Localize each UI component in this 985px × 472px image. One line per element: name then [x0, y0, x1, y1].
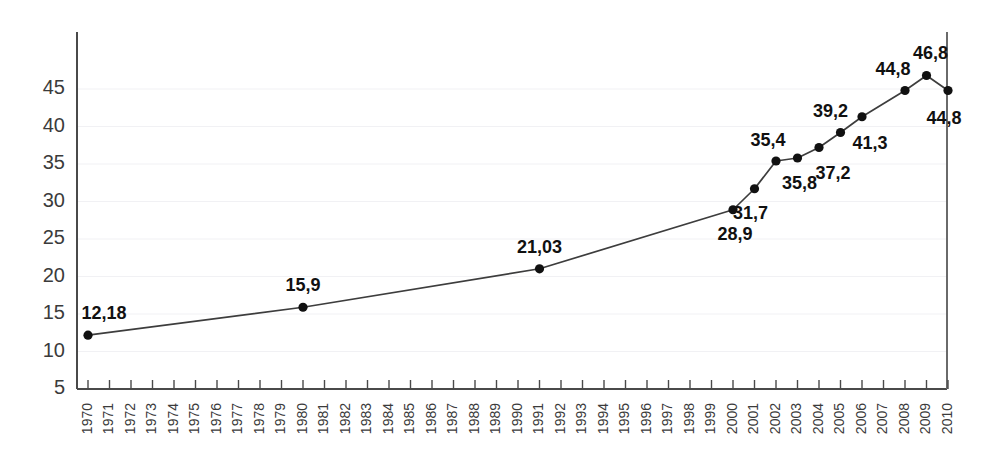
data-point-label: 35,4: [750, 130, 785, 150]
x-axis-tick-label: 1987: [444, 403, 460, 434]
data-point-marker: [836, 128, 845, 137]
x-axis-tick-label: 1991: [530, 403, 546, 434]
x-axis-tick-label: 1988: [466, 403, 482, 434]
y-axis-tick-label: 25: [43, 226, 65, 248]
x-axis-tick-label: 1981: [315, 403, 331, 434]
x-axis-tick-label: 1990: [509, 403, 525, 434]
chart-background: [0, 0, 985, 472]
line-chart: 51015202530354045 1970197119721973197419…: [0, 0, 985, 472]
x-axis-tick-label: 2007: [874, 403, 890, 434]
y-axis-tick-label: 40: [43, 114, 65, 136]
data-point-label: 46,8: [913, 43, 948, 63]
data-point-marker: [793, 153, 802, 162]
x-axis-tick-label: 2002: [767, 403, 783, 434]
data-point-label: 31,7: [733, 203, 768, 223]
x-axis-tick-label: 1971: [100, 403, 116, 434]
y-axis-tick-label: 35: [43, 151, 65, 173]
data-point-marker: [750, 184, 759, 193]
x-axis-tick-label: 1989: [487, 403, 503, 434]
data-point-marker: [771, 156, 780, 165]
x-axis-tick-label: 1973: [143, 403, 159, 434]
x-axis-tick-label: 1984: [380, 403, 396, 434]
x-axis-tick-label: 1993: [573, 403, 589, 434]
x-axis-tick-label: 1978: [251, 403, 267, 434]
data-point-label: 21,03: [517, 237, 562, 257]
x-axis-tick-label: 1972: [122, 403, 138, 434]
x-axis-tick-label: 1970: [79, 403, 95, 434]
x-axis-tick-label: 2009: [917, 403, 933, 434]
data-point-label: 44,8: [926, 108, 961, 128]
data-point-label: 15,9: [285, 275, 320, 295]
x-axis-tick-label: 1977: [229, 403, 245, 434]
y-axis-tick-label: 20: [43, 264, 65, 286]
data-point-marker: [900, 86, 909, 95]
x-axis-tick-label: 1983: [358, 403, 374, 434]
x-axis-tick-label: 2010: [939, 403, 955, 434]
y-axis-tick-labels: 51015202530354045: [43, 76, 65, 398]
x-axis-tick-label: 1992: [552, 403, 568, 434]
data-point-label: 35,8: [782, 173, 817, 193]
data-point-marker: [857, 112, 866, 121]
x-axis-tick-label: 1997: [659, 403, 675, 434]
x-axis-tick-label: 1996: [638, 403, 654, 434]
data-point-marker: [298, 303, 307, 312]
y-axis-tick-label: 5: [54, 376, 65, 398]
x-axis-tick-label: 1979: [272, 403, 288, 434]
x-axis-tick-label: 1999: [702, 403, 718, 434]
x-axis-tick-label: 1994: [595, 403, 611, 434]
x-axis-tick-label: 1980: [294, 403, 310, 434]
x-axis-tick-label: 1986: [423, 403, 439, 434]
x-axis-tick-label: 1998: [681, 403, 697, 434]
x-axis-tick-label: 2001: [745, 403, 761, 434]
x-axis-tick-label: 1974: [165, 403, 181, 434]
data-point-label: 28,9: [717, 224, 752, 244]
x-axis-tick-label: 2000: [724, 403, 740, 434]
x-axis-tick-label: 2006: [853, 403, 869, 434]
x-axis-tick-label: 2005: [831, 403, 847, 434]
data-point-marker: [922, 71, 931, 80]
data-point-marker: [943, 86, 952, 95]
x-axis-tick-label: 1995: [616, 403, 632, 434]
y-axis-tick-label: 45: [43, 76, 65, 98]
y-axis-tick-label: 30: [43, 189, 65, 211]
data-point-label: 44,8: [875, 59, 910, 79]
data-point-label: 41,3: [852, 133, 887, 153]
x-axis-tick-labels: 1970197119721973197419751976197719781979…: [79, 403, 955, 434]
x-axis-tick-label: 1985: [401, 403, 417, 434]
x-axis-tick-label: 2003: [788, 403, 804, 434]
x-tick-marks: [88, 380, 948, 389]
data-point-label: 12,18: [81, 303, 126, 323]
data-point-label: 39,2: [813, 101, 848, 121]
x-axis-tick-label: 2004: [810, 403, 826, 434]
data-point-marker: [83, 331, 92, 340]
data-point-marker: [814, 143, 823, 152]
data-point-label: 37,2: [815, 163, 850, 183]
x-axis-tick-label: 1982: [337, 403, 353, 434]
x-axis-tick-label: 2008: [896, 403, 912, 434]
x-axis-tick-label: 1976: [208, 403, 224, 434]
y-axis-tick-label: 10: [43, 339, 65, 361]
chart-canvas: 51015202530354045 1970197119721973197419…: [0, 0, 985, 472]
y-axis-tick-label: 15: [43, 301, 65, 323]
x-axis-tick-label: 1975: [186, 403, 202, 434]
data-point-marker: [535, 264, 544, 273]
